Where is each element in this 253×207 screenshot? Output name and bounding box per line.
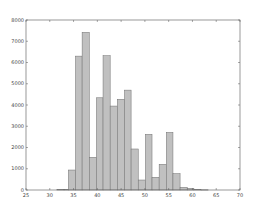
histogram-bar (103, 56, 110, 190)
histogram-bar (152, 177, 159, 190)
histogram-bar (138, 180, 145, 190)
histogram-chart: 25303540455055606570 0100020003000400050… (0, 0, 253, 207)
x-tick-label: 40 (94, 192, 100, 198)
y-tick-label: 6000 (11, 59, 24, 65)
y-tick-label: 1000 (11, 165, 24, 171)
y-tick-label: 8000 (11, 17, 24, 23)
histogram-bar (82, 32, 89, 190)
histogram-bar (96, 98, 103, 190)
histogram-bar (173, 174, 180, 190)
histogram-bar (166, 132, 173, 190)
x-tick-label: 50 (142, 192, 148, 198)
histogram-bars (57, 32, 208, 190)
histogram-bar (68, 170, 75, 190)
y-tick-label: 4000 (11, 102, 24, 108)
y-tick-label: 0 (21, 187, 24, 193)
x-tick-label: 70 (237, 192, 243, 198)
histogram-bar (159, 164, 166, 190)
histogram-bar (180, 187, 187, 190)
x-tick-label: 60 (189, 192, 195, 198)
x-tick-label: 45 (118, 192, 124, 198)
x-tick-label: 65 (213, 192, 219, 198)
y-tick-label: 3000 (11, 123, 24, 129)
histogram-bar (124, 90, 131, 190)
histogram-bar (131, 149, 138, 190)
histogram-bar (110, 106, 117, 190)
y-tick-label: 7000 (11, 38, 24, 44)
y-tick-label: 2000 (11, 144, 24, 150)
histogram-bar (117, 99, 124, 190)
histogram-bar (89, 157, 96, 190)
x-tick-label: 35 (70, 192, 76, 198)
y-tick-label: 5000 (11, 80, 24, 86)
x-tick-label: 55 (165, 192, 171, 198)
histogram-bar (145, 134, 152, 190)
x-tick-label: 25 (23, 192, 29, 198)
histogram-bar (75, 56, 82, 190)
x-tick-label: 30 (47, 192, 53, 198)
